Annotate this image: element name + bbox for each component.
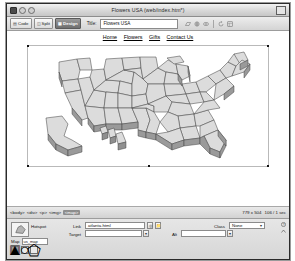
page-title-input[interactable]: Flowers USA [100,19,178,29]
download-size-status: 106 / 1 sec [265,210,286,215]
design-view-button[interactable]: ▦ Design [55,18,81,29]
target-dropdown-icon[interactable]: ▾ [143,230,149,237]
nav-link-contact-us[interactable]: Contact Us [167,34,194,40]
svg-text:?: ? [283,223,285,227]
document-status: 779 x 504 106 / 1 sec [242,210,286,215]
selection-handle-bl[interactable] [27,165,29,167]
title-field-label: Title: [87,21,97,26]
tag-map[interactable]: <map> [63,210,80,215]
nav-link-gifts[interactable]: Gifts [149,34,160,40]
hotspot-polygon-icon [11,222,29,237]
alt-dropdown-icon[interactable]: ▾ [227,230,233,237]
panel-object-name: Hotspot [31,224,46,229]
tag-img[interactable]: <img> [49,210,61,215]
window-size-status[interactable]: 779 x 504 [242,210,261,215]
code-view-label: Code [18,21,29,26]
document-toolbar: ▤ Code ◫ Split ▦ Design Title: Flowers U… [7,17,289,31]
window-title-bar[interactable]: Flowers USA (web/index.htm*) [7,4,289,17]
document-window: Flowers USA (web/index.htm*) ▤ Code ◫ Sp… [6,3,290,260]
code-view-button[interactable]: ▤ Code [10,18,32,29]
usa-map-graphic [28,46,268,166]
nav-link-flowers[interactable]: Flowers [124,34,143,40]
site-navigation: Home Flowers Gifts Contact Us [7,31,289,40]
selection-handle-tr[interactable] [267,45,269,47]
class-label: Class [211,224,225,229]
split-view-icon: ◫ [37,22,41,26]
design-view-label: Design [63,21,78,26]
pointer-hotspot-tool[interactable]: ▲ [11,246,19,254]
code-view-icon: ▤ [13,22,17,26]
window-title: Flowers USA (web/index.htm*) [7,7,289,13]
selection-handle-br[interactable] [267,165,269,167]
refresh-design-view-icon[interactable] [218,21,224,27]
split-view-button[interactable]: ◫ Split [34,18,54,29]
tag-p[interactable]: <p> [39,210,47,215]
toolbar-icon-group [185,20,233,28]
panel-corner-controls: ? [281,222,286,234]
selection-handle-tl[interactable] [27,45,29,47]
browse-folder-icon[interactable]: 📁 [155,222,161,229]
alt-input[interactable] [181,230,226,237]
class-select-value: None [232,223,243,228]
alt-label: Alt [167,232,177,237]
preview-browser-icon[interactable] [194,21,200,27]
split-view-label: Split [42,21,51,26]
expand-panel-icon[interactable] [281,229,286,234]
toolbar-toggle-icon[interactable] [276,6,286,15]
nav-link-home[interactable]: Home [103,34,117,40]
tag-div[interactable]: <div> [27,210,38,215]
target-label: Target [59,232,81,237]
class-select[interactable]: None ▾ [229,222,265,229]
tag-selector-bar: <body> <div> <p> <img> <map> 779 x 504 1… [7,207,289,219]
polygon-hotspot-tool[interactable]: ⬠ [30,246,38,254]
selection-handle-bc[interactable] [148,165,150,167]
link-label: Link [65,224,81,229]
design-view-icon: ▦ [58,22,62,26]
toolbar-divider [213,20,214,28]
tag-body[interactable]: <body> [10,210,25,215]
usa-map-image[interactable] [27,45,269,167]
chevron-down-icon: ▾ [260,224,262,228]
target-input[interactable] [85,230,142,237]
visual-aids-icon[interactable] [203,21,209,27]
hotspot-tool-group: ▲ □ ○ ⬠ [11,246,38,254]
point-to-file-icon[interactable]: ◎ [147,222,153,229]
property-inspector: Hotspot Link atlanta.html ◎ 📁 Target ▾ A… [7,219,289,259]
help-icon[interactable]: ? [281,222,286,227]
design-view-canvas[interactable]: Home Flowers Gifts Contact Us [7,31,289,207]
view-options-icon[interactable] [227,21,233,27]
file-management-icon[interactable] [185,21,191,27]
link-input[interactable]: atlanta.html [85,222,145,229]
